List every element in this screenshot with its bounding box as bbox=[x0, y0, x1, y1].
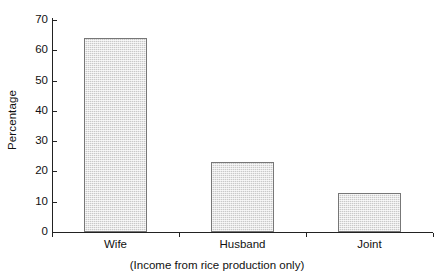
x-axis-category-label: Husband bbox=[179, 238, 306, 251]
bar-joint bbox=[338, 193, 401, 232]
y-axis-tick-label: 60 bbox=[22, 44, 48, 56]
plot-area bbox=[52, 20, 433, 232]
x-axis-line bbox=[52, 232, 433, 233]
y-axis-tick-label: 40 bbox=[22, 105, 48, 117]
y-axis-tick-label-wrap: 60 bbox=[18, 44, 48, 56]
y-axis-tick-label-wrap: 20 bbox=[18, 165, 48, 177]
y-axis-tick-label-wrap: 10 bbox=[18, 196, 48, 208]
y-axis-tick-label: 70 bbox=[22, 14, 48, 26]
y-axis-tick-label-wrap: 50 bbox=[18, 75, 48, 87]
x-axis-tick bbox=[179, 233, 180, 237]
bar-chart: Percentage 706050403020100 WifeHusbandJo… bbox=[0, 0, 434, 277]
x-axis-tick bbox=[52, 233, 53, 237]
y-axis-tick-label-wrap: 0 bbox=[18, 226, 48, 238]
y-axis-title-label: Percentage bbox=[6, 90, 18, 150]
y-axis-tick-label: 30 bbox=[22, 135, 48, 147]
x-axis-tick bbox=[306, 233, 307, 237]
y-axis-tick-label-wrap: 70 bbox=[18, 14, 48, 26]
y-axis-tick-label: 10 bbox=[22, 196, 48, 208]
bar-husband bbox=[211, 162, 274, 232]
x-axis-caption: (Income from rice production only) bbox=[0, 259, 434, 271]
y-axis-tick-label: 20 bbox=[22, 165, 48, 177]
x-axis-category-label: Wife bbox=[52, 238, 179, 251]
y-axis-tick-label: 50 bbox=[22, 75, 48, 87]
y-axis-tick-label-wrap: 40 bbox=[18, 105, 48, 117]
bar-wife bbox=[84, 38, 147, 232]
y-axis-tick bbox=[53, 232, 57, 233]
y-axis-tick-label-wrap: 30 bbox=[18, 135, 48, 147]
y-axis-tick-label: 0 bbox=[22, 226, 48, 238]
x-axis-category-label: Joint bbox=[306, 238, 433, 251]
